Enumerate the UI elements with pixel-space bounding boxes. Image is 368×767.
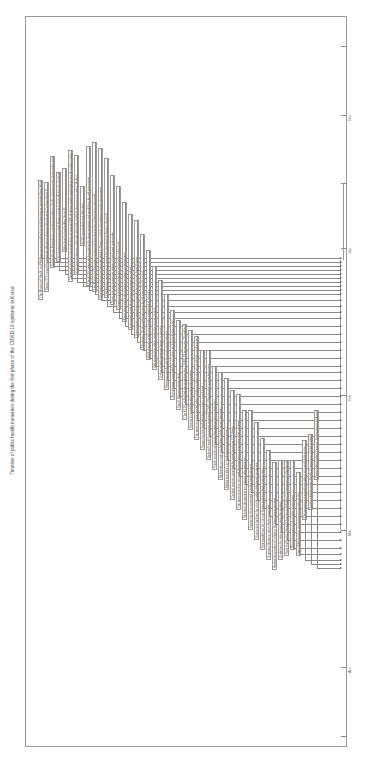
leader-connector [173, 310, 174, 388]
leader-connector [179, 320, 180, 396]
leader-connector [107, 158, 108, 306]
leader-connector [47, 182, 48, 262]
leader-connector [149, 250, 150, 358]
axis-tick-label: Jan [348, 248, 352, 254]
leader-connector [203, 350, 204, 428]
leader-connector [209, 350, 210, 436]
leader-connector [191, 330, 192, 412]
leader-connector [161, 280, 162, 372]
arrowhead-icon [340, 435, 342, 437]
arrowhead-icon [340, 341, 342, 343]
arrowhead-icon [340, 515, 342, 517]
arrowhead-icon [340, 427, 342, 429]
arrowhead-icon [340, 349, 342, 351]
arrowhead-icon [340, 411, 342, 413]
leader-connector [257, 422, 258, 500]
arrowhead-icon [340, 567, 342, 569]
arrowhead-icon [340, 365, 342, 367]
leader-connector [251, 410, 252, 492]
arrowhead-icon [340, 459, 342, 461]
leader-connector [89, 146, 90, 290]
arrowhead-icon [340, 293, 342, 295]
date-bracket-line [343, 183, 344, 260]
leader-connector [305, 440, 306, 560]
arrowhead-icon [340, 419, 342, 421]
arrowhead-icon [340, 499, 342, 501]
leader-connector [53, 156, 54, 266]
leader-connector [311, 434, 312, 564]
axis-tick-label: Dec [348, 115, 352, 121]
leader-connector [65, 168, 66, 274]
leader-connector [263, 438, 264, 508]
arrowhead-icon [340, 257, 342, 259]
date-bracket-line [340, 395, 341, 530]
leader-connector [137, 220, 138, 342]
leader-connector [155, 266, 156, 366]
leader-connector [299, 472, 300, 554]
arrowhead-icon [340, 547, 342, 549]
leader-connector [287, 460, 288, 540]
arrowhead-icon [340, 507, 342, 509]
axis-tick [341, 115, 347, 116]
leader-connector [227, 378, 228, 460]
arrowhead-icon [340, 387, 342, 389]
arrowhead-icon [340, 523, 342, 525]
axis-tick-label: Mar [348, 530, 352, 536]
leader-line [317, 568, 342, 569]
arrowhead-icon [340, 395, 342, 397]
arrowhead-icon [340, 311, 342, 313]
arrowhead-icon [340, 317, 342, 319]
axis-tick-label: Apr [348, 667, 352, 673]
arrowhead-icon [340, 559, 342, 561]
arrowhead-icon [340, 299, 342, 301]
arrowhead-icon [340, 491, 342, 493]
leader-connector [245, 410, 246, 484]
axis-tick-label: Feb [348, 395, 352, 401]
arrowhead-icon [340, 443, 342, 445]
figure-title: Timeline of public health measures durin… [10, 201, 15, 561]
leader-connector [143, 234, 144, 350]
leader-connector [215, 366, 216, 444]
axis-tick [341, 667, 347, 668]
leader-connector [281, 460, 282, 532]
leader-connector [59, 172, 60, 270]
leader-connector [185, 324, 186, 404]
arrowhead-icon [340, 333, 342, 335]
leader-connector [95, 142, 96, 294]
axis-tick [341, 248, 347, 249]
arrowhead-icon [340, 265, 342, 267]
leader-connector [293, 460, 294, 548]
arrowhead-icon [340, 475, 342, 477]
arrowhead-icon [340, 563, 342, 565]
arrowhead-icon [340, 281, 342, 283]
leader-connector [71, 150, 72, 278]
arrowhead-icon [340, 553, 342, 555]
arrowhead-icon [340, 357, 342, 359]
arrowhead-icon [340, 277, 342, 279]
leader-connector [83, 186, 84, 286]
leader-connector [269, 450, 270, 516]
leader-connector [119, 186, 120, 318]
arrowhead-icon [340, 531, 342, 533]
leader-connector [131, 214, 132, 334]
leader-connector [113, 175, 114, 312]
leader-connector [41, 180, 42, 258]
date-axis [346, 16, 347, 747]
leader-connector [239, 394, 240, 476]
leader-connector [101, 148, 102, 300]
arrowhead-icon [340, 285, 342, 287]
axis-tick [341, 736, 347, 737]
leader-connector [233, 390, 234, 468]
arrowhead-icon [340, 451, 342, 453]
axis-tick [341, 46, 347, 47]
arrowhead-icon [340, 403, 342, 405]
arrowhead-icon [340, 467, 342, 469]
leader-connector [221, 372, 222, 452]
arrowhead-icon [340, 273, 342, 275]
arrowhead-icon [340, 289, 342, 291]
arrowhead-icon [340, 325, 342, 327]
leader-connector [167, 294, 168, 380]
leader-line [311, 564, 342, 565]
arrowhead-icon [340, 539, 342, 541]
leader-connector [125, 202, 126, 326]
